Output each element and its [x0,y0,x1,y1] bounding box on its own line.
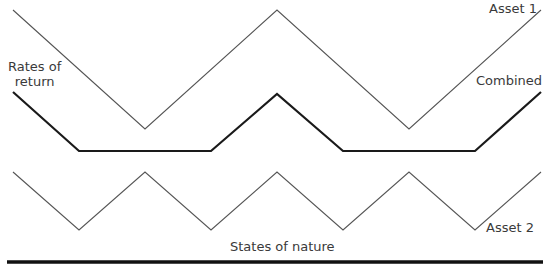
asset2-line [13,172,541,230]
combined-line [13,92,541,151]
y-axis-label-line2: return [8,74,61,89]
combined-label: Combined [476,73,542,88]
asset1-line [13,10,541,129]
asset2-label: Asset 2 [486,220,534,235]
y-axis-label-line1: Rates of [8,59,61,74]
x-axis-label: States of nature [230,239,335,254]
asset1-label: Asset 1 [489,1,537,16]
y-axis-label: Rates of return [8,59,61,89]
line-plot [0,0,551,270]
diversification-diagram: Rates of return Asset 1 Combined Asset 2… [0,0,551,270]
